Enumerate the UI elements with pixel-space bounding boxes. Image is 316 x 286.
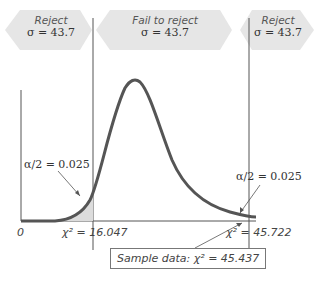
alpha-right-label: α/2 = 0.025 [236, 170, 302, 183]
region-sigma: σ = 43.7 [16, 26, 86, 39]
sample-data-box: Sample data: χ² = 45.437 [110, 248, 266, 269]
origin-label: 0 [17, 226, 24, 239]
region-sigma: σ = 43.7 [110, 26, 220, 39]
region-sigma: σ = 43.7 [245, 26, 311, 39]
alpha-right-pointer [240, 185, 260, 213]
region-reject-right: Reject σ = 43.7 [245, 14, 311, 39]
region-reject-left: Reject σ = 43.7 [16, 14, 86, 39]
region-fail-to-reject: Fail to reject σ = 43.7 [110, 14, 220, 39]
critical-left-label: χ² = 16.047 [62, 226, 128, 239]
region-label: Reject [245, 14, 311, 26]
alpha-left-label: α/2 = 0.025 [24, 158, 90, 171]
region-label: Fail to reject [110, 14, 220, 26]
left-tail-shade [60, 192, 93, 221]
critical-right-label: χ² = 45.722 [226, 226, 292, 239]
chi-square-curve [21, 80, 256, 221]
chi-square-diagram [0, 0, 316, 286]
region-label: Reject [16, 14, 86, 26]
